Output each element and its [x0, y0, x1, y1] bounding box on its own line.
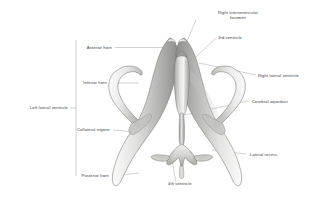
label-posterior-horn: Posterior horn: [0, 173, 109, 178]
label-cerebral-aqueduct: Cerebral aqueduct: [252, 99, 288, 104]
third-ventricle: [174, 55, 189, 117]
label-right-interventricular-foramen-line2: foramen: [196, 15, 280, 20]
left-inferior-horn: [109, 66, 143, 127]
label-fourth-ventricle: 4th ventricle: [168, 181, 192, 186]
fourth-ventricle-inferior-tip: [179, 166, 183, 179]
cerebral-aqueduct: [179, 113, 184, 146]
label-lateral-recess: Lateral recess: [250, 152, 277, 157]
label-right-lateral-ventricle: Right lateral ventricle: [258, 73, 299, 78]
label-inferior-horn: Inferior horn: [0, 80, 107, 85]
label-collateral-trigone: Collateral trigone: [0, 127, 110, 132]
ventricular-system-diagram: Anterior horn Inferior horn Left lateral…: [0, 0, 318, 201]
label-third-ventricle: 3rd ventricle: [218, 35, 242, 40]
label-left-lateral-ventricle: Left lateral ventricle: [0, 105, 68, 110]
label-anterior-horn: Anterior horn: [0, 45, 112, 50]
